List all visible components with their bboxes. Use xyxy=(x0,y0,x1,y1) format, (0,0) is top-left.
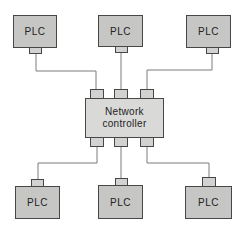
controller-port-top-3 xyxy=(140,89,154,99)
controller-port-top-2 xyxy=(114,89,128,99)
plc-label: PLC xyxy=(198,197,219,208)
plc-node-top-middle: PLC xyxy=(98,15,143,47)
plc-label: PLC xyxy=(110,26,131,37)
plc-label: PLC xyxy=(25,26,46,37)
plc-label: PLC xyxy=(198,26,219,37)
plc-port-bottom-right xyxy=(202,177,216,187)
plc-port-bottom-left xyxy=(31,179,44,187)
network-controller-label: Network controller xyxy=(102,106,146,130)
plc-node-top-left: PLC xyxy=(13,15,57,48)
controller-port-top-1 xyxy=(90,89,104,99)
wire-bottom-left xyxy=(38,146,97,180)
controller-port-bottom-3 xyxy=(140,137,154,147)
wire-bottom-right xyxy=(147,146,209,178)
plc-node-bottom-left: PLC xyxy=(15,186,60,219)
plc-node-top-right: PLC xyxy=(186,15,231,48)
plc-node-bottom-middle: PLC xyxy=(98,185,143,219)
controller-label-line-2: controller xyxy=(102,118,146,130)
plc-port-top-middle xyxy=(115,46,128,53)
plc-port-bottom-middle xyxy=(115,178,128,186)
wire-top-left xyxy=(36,54,96,90)
wire-top-right xyxy=(147,54,212,90)
controller-label-line-1: Network xyxy=(102,106,146,118)
plc-label: PLC xyxy=(27,197,48,208)
controller-port-bottom-1 xyxy=(90,137,104,147)
plc-port-top-right xyxy=(206,47,219,54)
controller-port-bottom-2 xyxy=(114,137,128,147)
network-controller-node: Network controller xyxy=(85,98,164,138)
plc-port-top-left xyxy=(29,47,42,54)
plc-label: PLC xyxy=(110,197,131,208)
plc-node-bottom-right: PLC xyxy=(185,186,232,219)
network-topology-diagram: PLC PLC PLC Network controller PLC PLC P… xyxy=(0,0,248,233)
